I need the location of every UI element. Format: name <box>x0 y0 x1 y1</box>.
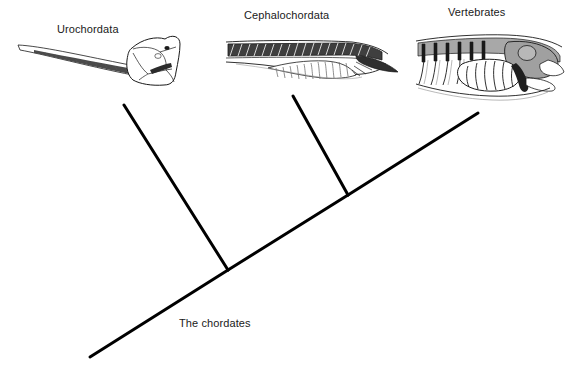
cladogram-branches-layer <box>0 0 574 374</box>
taxon-label-cephalochordata: Cephalochordata <box>244 9 329 21</box>
taxon-label-urochordata: Urochordata <box>57 23 119 35</box>
taxon-label-vertebrates: Vertebrates <box>448 6 505 18</box>
cladogram-figure: Urochordata Cephalochordata Vertebrates … <box>0 0 574 374</box>
branch-urochordata <box>124 105 228 270</box>
branch-cephalochordata <box>293 96 348 195</box>
branch-node1-to-node2 <box>228 195 348 270</box>
branch-vertebrates <box>348 113 478 195</box>
root-label-the-chordates: The chordates <box>179 317 251 329</box>
branch-root-trunk <box>90 270 228 357</box>
